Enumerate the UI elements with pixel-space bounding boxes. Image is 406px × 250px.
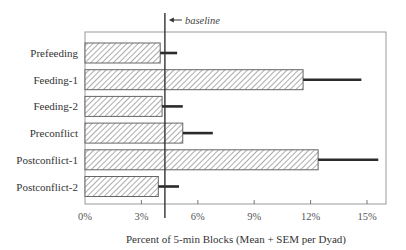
bars-group [85, 43, 378, 197]
x-axis-title: Percent of 5-min Blocks (Mean + SEM per … [126, 233, 346, 246]
bar-prefeeding [85, 43, 177, 63]
category-label: Preconflict [30, 127, 78, 139]
bar-rect [85, 150, 318, 170]
bar-preconflict [85, 123, 213, 143]
x-tick-label: 9% [247, 211, 261, 222]
x-tick-label: 15% [357, 211, 377, 222]
bar-feeding-1 [85, 70, 361, 90]
category-label: Postconflict-2 [16, 181, 78, 193]
bar-postconflict-1 [85, 150, 378, 170]
bar-rect [85, 177, 158, 197]
x-tick-label: 6% [191, 211, 205, 222]
category-label: Feeding-2 [33, 100, 78, 112]
x-tick-label: 0% [78, 211, 92, 222]
category-labels: PrefeedingFeeding-1Feeding-2PreconflictP… [16, 47, 78, 193]
baseline-label: baseline [185, 15, 220, 26]
bar-feeding-2 [85, 96, 183, 116]
arrow-head-icon [169, 18, 174, 23]
category-label: Feeding-1 [33, 74, 78, 86]
x-tick-label: 3% [134, 211, 148, 222]
x-axis-ticks: 0%3%6%9%12%15% [78, 200, 377, 222]
bar-rect [85, 96, 162, 116]
bar-chart: PrefeedingFeeding-1Feeding-2PreconflictP… [0, 0, 406, 250]
x-tick-label: 12% [301, 211, 321, 222]
category-label: Prefeeding [30, 47, 78, 59]
bar-rect [85, 123, 183, 143]
bar-rect [85, 43, 160, 63]
category-label: Postconflict-1 [16, 154, 78, 166]
bar-rect [85, 70, 303, 90]
